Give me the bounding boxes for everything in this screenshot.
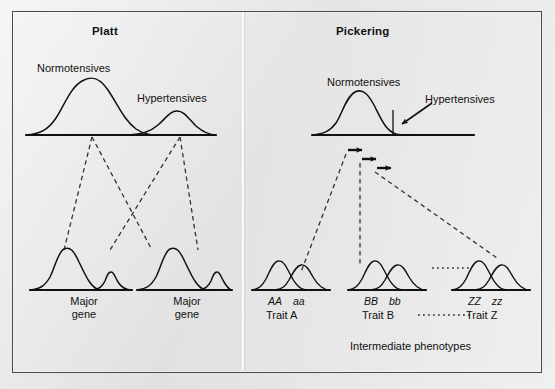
platt-group1-label-line2: gene bbox=[60, 308, 108, 320]
trait-b-label: Trait B bbox=[362, 309, 394, 321]
platt-group1-label-line1: Major bbox=[60, 295, 108, 307]
platt-group1-minor-curve bbox=[93, 272, 132, 290]
platt-group2-label-line2: gene bbox=[163, 308, 211, 320]
panel-title-pickering: Pickering bbox=[336, 25, 390, 38]
trait-z-allele-recessive: zz bbox=[492, 295, 503, 307]
pickering-shift-arrows bbox=[348, 150, 391, 168]
trait-b-curve-bb bbox=[371, 265, 426, 290]
platt-dashed-links bbox=[64, 137, 198, 250]
trait-b-alleles: BB bb bbox=[364, 295, 401, 307]
trait-z-curve-zz bbox=[475, 265, 530, 290]
figure-canvas: Platt Normotensives Hypertensives Major … bbox=[0, 0, 555, 389]
pickering-dashed-links bbox=[301, 154, 497, 272]
pickering-hypertensives-pointer bbox=[402, 103, 432, 124]
diagram-vectors bbox=[0, 0, 555, 389]
trait-a-curve-AA bbox=[252, 261, 306, 290]
trait-b-allele-dominant: BB bbox=[364, 295, 378, 307]
panel-title-platt: Platt bbox=[92, 25, 118, 38]
platt-group2-minor-curve bbox=[199, 272, 232, 290]
platt-hypertensives-label: Hypertensives bbox=[137, 92, 207, 104]
trait-z-allele-dominant: ZZ bbox=[468, 295, 481, 307]
trait-b-curve-BB bbox=[348, 261, 402, 290]
trait-z-label: Trait Z bbox=[466, 309, 497, 321]
trait-a-allele-dominant: AA bbox=[268, 295, 282, 307]
platt-group2-major-curve bbox=[137, 248, 232, 290]
trait-z-curve-ZZ bbox=[452, 261, 506, 290]
trait-b-allele-recessive: bb bbox=[389, 295, 401, 307]
pickering-normotensives-label: Normotensives bbox=[327, 76, 400, 88]
trait-a-allele-recessive: aa bbox=[293, 295, 305, 307]
trait-z-alleles: ZZ zz bbox=[468, 295, 502, 307]
platt-normotensives-label: Normotensives bbox=[37, 62, 110, 74]
platt-normotensives-curve bbox=[26, 78, 216, 135]
intermediate-phenotypes-caption: Intermediate phenotypes bbox=[350, 340, 471, 352]
trait-a-alleles: AA aa bbox=[268, 295, 305, 307]
platt-group1-major-curve bbox=[30, 248, 132, 290]
pickering-hypertensives-label: Hypertensives bbox=[425, 93, 495, 105]
trait-a-label: Trait A bbox=[266, 309, 297, 321]
platt-group2-label-line1: Major bbox=[163, 295, 211, 307]
